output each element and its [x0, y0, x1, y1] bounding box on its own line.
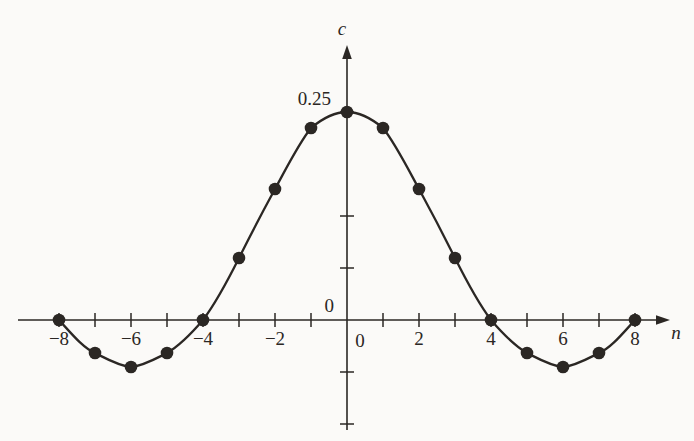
x-tick-label--8: −8 — [49, 328, 69, 349]
x-tick-label-0: 0 — [355, 330, 365, 351]
data-point-6[interactable] — [557, 361, 570, 374]
data-point-8[interactable] — [629, 314, 642, 327]
data-point--7[interactable] — [89, 347, 102, 360]
x-tick-label--6: −6 — [121, 328, 141, 349]
y-tick-labels: 0.25 0 — [298, 88, 334, 316]
data-point-1[interactable] — [377, 122, 390, 135]
data-point-3[interactable] — [449, 252, 462, 265]
data-point--3[interactable] — [233, 252, 246, 265]
y-tick-label-0: 0 — [325, 295, 335, 316]
y-axis-arrowhead — [342, 45, 352, 59]
axis-titles: c n — [338, 18, 681, 343]
data-point-2[interactable] — [413, 183, 426, 196]
data-point--1[interactable] — [305, 122, 318, 135]
x-tick-labels: −8 −6 −4 −2 0 2 4 6 8 — [49, 328, 640, 351]
data-point-5[interactable] — [521, 347, 534, 360]
y-tick-label-0.25: 0.25 — [298, 88, 331, 109]
data-point--8[interactable] — [53, 314, 66, 327]
chart-canvas: −8 −6 −4 −2 0 2 4 6 8 0.25 0 c n — [0, 0, 694, 441]
data-point-4[interactable] — [485, 314, 498, 327]
x-tick-label-6: 6 — [558, 328, 568, 349]
x-tick-label--2: −2 — [265, 328, 285, 349]
x-tick-label-8: 8 — [630, 328, 640, 349]
data-point--2[interactable] — [269, 183, 282, 196]
y-axis-title: c — [338, 18, 347, 39]
data-point--4[interactable] — [197, 314, 210, 327]
x-tick-label--4: −4 — [193, 328, 214, 349]
x-axis-title: n — [671, 322, 681, 343]
x-tick-label-4: 4 — [486, 328, 496, 349]
data-point-7[interactable] — [593, 347, 606, 360]
x-axis-arrowhead — [656, 315, 670, 325]
data-point-0[interactable] — [341, 106, 354, 119]
data-point--6[interactable] — [125, 361, 138, 374]
x-tick-label-2: 2 — [414, 328, 424, 349]
figure-container: −8 −6 −4 −2 0 2 4 6 8 0.25 0 c n — [0, 0, 694, 441]
data-point--5[interactable] — [161, 347, 174, 360]
